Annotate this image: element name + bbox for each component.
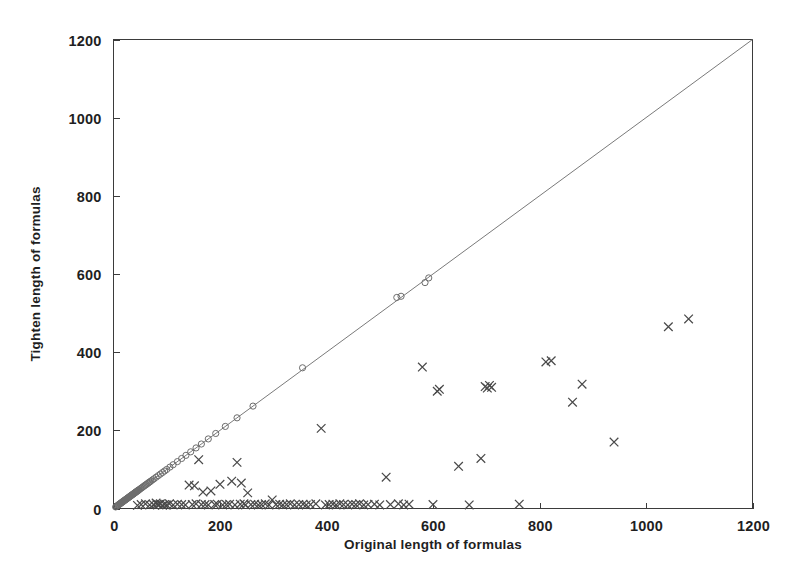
data-point-cross	[454, 462, 463, 471]
x-tick-label: 1000	[630, 518, 663, 534]
data-point-cross	[568, 398, 577, 407]
reference-diagonal-line	[114, 40, 753, 509]
scatter-plot-figure: 020040060080010001200 020040060080010001…	[0, 0, 803, 568]
data-point-cross	[664, 322, 673, 331]
data-point-cross	[684, 315, 693, 324]
x-tick-label: 800	[528, 518, 553, 534]
y-axis-ticks	[114, 41, 120, 510]
y-axis-title: Tighten length of formulas	[28, 186, 43, 361]
x-tick-label: 400	[315, 518, 340, 534]
data-point-cross	[199, 488, 208, 497]
y-tick-label: 200	[77, 423, 102, 439]
data-point-cross	[312, 500, 321, 509]
data-point-cross	[194, 455, 203, 464]
y-tick-label: 400	[77, 345, 102, 361]
data-point-cross	[578, 380, 587, 389]
y-axis-tick-labels: 020040060080010001200	[68, 33, 101, 518]
data-point-cross	[317, 424, 326, 433]
data-point-cross	[233, 458, 242, 467]
data-point-cross	[227, 477, 236, 486]
x-tick-label: 1200	[737, 518, 770, 534]
data-point-circle	[394, 294, 400, 300]
x-tick-label: 600	[421, 518, 446, 534]
data-point-cross	[207, 487, 216, 496]
x-axis-tick-labels: 020040060080010001200	[110, 518, 770, 534]
y-tick-label: 0	[93, 502, 101, 518]
data-point-cross	[515, 500, 524, 509]
y-tick-label: 1200	[68, 33, 101, 49]
data-point-cross	[477, 454, 486, 463]
data-point-cross	[237, 479, 246, 488]
data-point-cross	[190, 482, 199, 491]
y-tick-label: 600	[77, 267, 102, 283]
y-tick-label: 800	[77, 189, 102, 205]
series-tightened-crosses	[133, 315, 693, 510]
data-point-cross	[386, 500, 395, 509]
data-point-cross	[610, 438, 619, 447]
data-point-cross	[243, 489, 252, 498]
data-point-cross	[418, 363, 427, 372]
y-tick-label: 1000	[68, 111, 101, 127]
x-axis-title: Original length of formulas	[344, 537, 522, 552]
data-point-cross	[382, 473, 391, 482]
reference-line	[114, 40, 753, 509]
data-point-cross	[435, 385, 444, 394]
x-tick-label: 0	[110, 518, 118, 534]
data-point-cross	[216, 480, 225, 489]
data-point-cross	[405, 500, 414, 509]
data-point-cross	[547, 356, 556, 365]
plot-canvas: 020040060080010001200 020040060080010001…	[0, 0, 803, 568]
data-point-circle	[426, 275, 432, 281]
x-tick-label: 200	[208, 518, 233, 534]
